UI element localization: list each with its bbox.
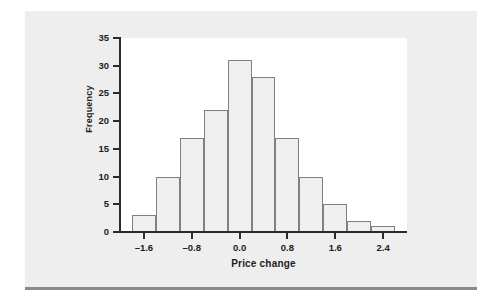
x-axis-tick	[239, 233, 241, 239]
histogram-bar	[275, 138, 299, 232]
bottom-rule	[25, 287, 477, 290]
x-axis-tick	[191, 233, 193, 239]
x-axis-tick-label: 1.6	[315, 242, 355, 253]
x-axis-line	[119, 231, 407, 233]
y-axis-tick-label-wrap: 10	[79, 172, 109, 182]
y-axis-tick-label: 15	[83, 144, 109, 154]
y-axis-tick-label-wrap: 0	[79, 227, 109, 237]
y-axis-tick	[113, 92, 119, 94]
y-axis-tick-label: 0	[83, 227, 109, 237]
y-axis-tick	[113, 203, 119, 205]
y-axis-tick	[113, 120, 119, 122]
histogram-bar	[204, 110, 228, 232]
y-axis-tick	[113, 148, 119, 150]
y-axis-tick-label: 10	[83, 172, 109, 182]
x-axis-tick-label: –0.8	[172, 242, 212, 253]
y-axis-tick-label: 30	[83, 61, 109, 71]
histogram-bar	[180, 138, 204, 232]
y-axis-tick	[113, 37, 119, 39]
y-axis-tick-label-wrap: 5	[79, 199, 109, 209]
histogram-figure: 05101520253035 –1.6–0.80.00.81.62.4 Freq…	[0, 0, 491, 307]
histogram-bar	[228, 60, 252, 232]
x-axis-tick	[382, 233, 384, 239]
y-axis-tick-label-wrap: 30	[79, 61, 109, 71]
x-axis-tick	[286, 233, 288, 239]
x-axis-tick-label: 0.0	[220, 242, 260, 253]
histogram-bar	[252, 77, 276, 232]
y-axis-tick-label: 5	[83, 199, 109, 209]
x-axis-tick-label: 0.8	[267, 242, 307, 253]
y-axis-tick	[113, 231, 119, 233]
y-axis-tick	[113, 65, 119, 67]
x-axis-tick	[143, 233, 145, 239]
histogram-bar	[132, 215, 156, 232]
y-axis-tick-label-wrap: 35	[79, 33, 109, 43]
y-axis-line	[119, 37, 121, 233]
x-axis-title: Price change	[120, 258, 407, 269]
y-axis-tick-label-wrap: 15	[79, 144, 109, 154]
histogram-bar	[323, 204, 347, 232]
x-axis-tick	[334, 233, 336, 239]
y-axis-title: Frequency	[84, 74, 94, 144]
histogram-bar	[299, 177, 323, 232]
histogram-bar	[156, 177, 180, 232]
x-axis-tick-label: 2.4	[363, 242, 403, 253]
y-axis-tick	[113, 176, 119, 178]
y-axis-tick-label: 35	[83, 33, 109, 43]
x-axis-tick-label: –1.6	[124, 242, 164, 253]
